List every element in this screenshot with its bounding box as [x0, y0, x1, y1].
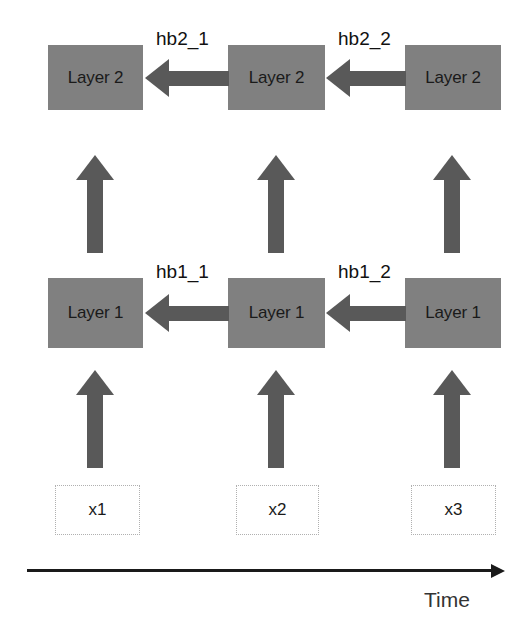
vertical-arrow-layer1-to-layer2-t3 — [433, 155, 471, 253]
edge-label-hb1-2: hb1_2 — [338, 261, 391, 283]
layer2-block-t3: Layer 2 — [405, 45, 501, 110]
layer2-block-t2-label: Layer 2 — [249, 68, 304, 88]
arrow-head-right-icon — [491, 564, 505, 578]
layer1-block-t3: Layer 1 — [405, 278, 501, 348]
layer2-block-t2: Layer 2 — [228, 45, 325, 110]
input-block-x1-label: x1 — [89, 500, 107, 520]
time-axis-arrow — [27, 563, 505, 579]
arrow-shaft — [87, 392, 103, 468]
layer1-block-t1-label: Layer 1 — [68, 303, 123, 323]
edge-label-hb1-1: hb1_1 — [156, 261, 209, 283]
arrow-head-up-icon — [257, 370, 295, 395]
arrow-shaft — [444, 177, 460, 253]
layer1-block-t3-label: Layer 1 — [425, 303, 480, 323]
arrow-head-left-icon — [145, 59, 169, 97]
arrow-shaft — [348, 306, 406, 321]
layer2-block-t3-label: Layer 2 — [425, 68, 480, 88]
layer2-block-t1: Layer 2 — [48, 45, 143, 110]
edge-label-hb2-2: hb2_2 — [338, 28, 391, 50]
vertical-arrow-input-to-layer1-t2 — [257, 370, 295, 468]
arrow-head-left-icon — [326, 294, 350, 332]
diagram-canvas: Layer 2 Layer 2 Layer 2 hb2_1 hb2_2 Laye… — [0, 0, 525, 640]
edge-label-hb2-1: hb2_1 — [156, 28, 209, 50]
arrow-shaft — [167, 71, 229, 86]
input-block-x3-label: x3 — [445, 500, 463, 520]
arrow-head-up-icon — [76, 370, 114, 395]
vertical-arrow-layer1-to-layer2-t2 — [257, 155, 295, 253]
arrow-shaft — [167, 306, 229, 321]
input-block-x2-label: x2 — [269, 500, 287, 520]
input-block-x3: x3 — [411, 485, 496, 535]
recurrent-arrow-layer2-t3-to-t2 — [326, 59, 406, 97]
arrow-shaft — [268, 177, 284, 253]
recurrent-arrow-layer2-t2-to-t1 — [145, 59, 229, 97]
recurrent-arrow-layer1-t3-to-t2 — [326, 294, 406, 332]
arrow-head-left-icon — [145, 294, 169, 332]
arrow-shaft — [87, 177, 103, 253]
input-block-x1: x1 — [55, 485, 140, 535]
arrow-head-up-icon — [257, 155, 295, 180]
arrow-shaft — [348, 71, 406, 86]
time-axis-line — [27, 569, 493, 572]
vertical-arrow-input-to-layer1-t3 — [433, 370, 471, 468]
vertical-arrow-input-to-layer1-t1 — [76, 370, 114, 468]
arrow-head-up-icon — [433, 370, 471, 395]
arrow-head-up-icon — [76, 155, 114, 180]
arrow-shaft — [444, 392, 460, 468]
input-block-x2: x2 — [236, 485, 319, 535]
recurrent-arrow-layer1-t2-to-t1 — [145, 294, 229, 332]
arrow-shaft — [268, 392, 284, 468]
arrow-head-left-icon — [326, 59, 350, 97]
vertical-arrow-layer1-to-layer2-t1 — [76, 155, 114, 253]
arrow-head-up-icon — [433, 155, 471, 180]
layer1-block-t1: Layer 1 — [48, 278, 143, 348]
layer2-block-t1-label: Layer 2 — [68, 68, 123, 88]
layer1-block-t2-label: Layer 1 — [249, 303, 304, 323]
time-axis-label: Time — [424, 588, 470, 612]
layer1-block-t2: Layer 1 — [228, 278, 325, 348]
